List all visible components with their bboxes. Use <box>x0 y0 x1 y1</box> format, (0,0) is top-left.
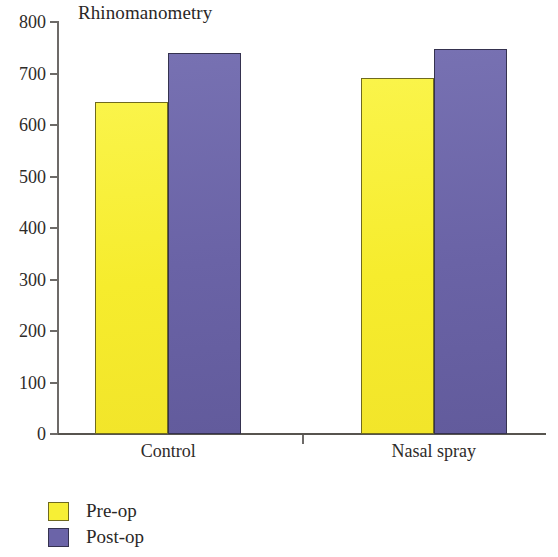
y-axis-tick-label: 500 <box>0 168 46 186</box>
y-axis-tick-label: 400 <box>0 219 46 237</box>
y-axis-tick-label: 600 <box>0 116 46 134</box>
legend-item-post-op: Post-op <box>48 524 308 550</box>
y-axis-tick-label: 300 <box>0 271 46 289</box>
y-axis-tick-label: 800 <box>0 13 46 31</box>
y-axis-tick-label: 100 <box>0 374 46 392</box>
legend-item-pre-op: Pre-op <box>48 498 308 524</box>
legend-swatch-post-op-icon <box>48 528 69 547</box>
legend-label-pre-op: Pre-op <box>86 500 137 522</box>
y-axis-tick-label: 200 <box>0 322 46 340</box>
legend-swatch-pre-op-icon <box>48 502 69 521</box>
bar-nasal-spray-pre-op <box>361 78 434 434</box>
rhinomanometry-bar-chart: Rhinomanometry 8007006005004003002001000… <box>0 0 558 557</box>
chart-legend: Pre-op Post-op <box>48 498 308 550</box>
x-axis-label-control: Control <box>78 441 258 462</box>
x-axis-tick <box>302 435 304 444</box>
bar-control-pre-op <box>95 102 168 434</box>
chart-title: Rhinomanometry <box>78 2 212 24</box>
bar-nasal-spray-post-op <box>434 49 507 434</box>
x-axis-label-nasal-spray: Nasal spray <box>344 441 524 462</box>
y-axis-tick-label: 0 <box>0 425 46 443</box>
y-axis-tick-label: 700 <box>0 65 46 83</box>
legend-label-post-op: Post-op <box>86 526 144 548</box>
bar-control-post-op <box>168 53 241 434</box>
plot-area <box>57 22 545 434</box>
